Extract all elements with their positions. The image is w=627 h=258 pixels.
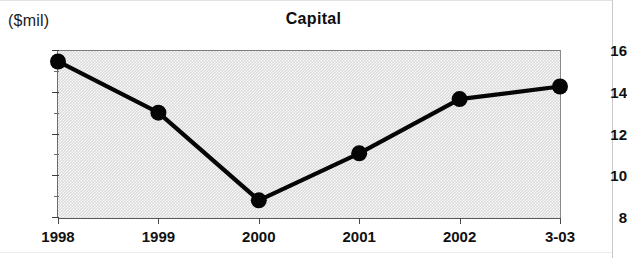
- plot-right-border: [560, 50, 561, 218]
- x-tick-label-2001: 2001: [343, 228, 376, 245]
- y-tick-label-12: 12: [581, 125, 627, 142]
- x-tick-2000: [259, 218, 260, 224]
- plot-area: [58, 50, 560, 219]
- y-minor-tick-11: [54, 154, 59, 155]
- x-tick-label-1998: 1998: [41, 228, 74, 245]
- x-tick-label-2002: 2002: [443, 228, 476, 245]
- y-tick-label-8: 8: [581, 209, 627, 226]
- y-minor-tick-15: [54, 71, 59, 72]
- x-tick-3-03: [560, 218, 561, 224]
- y-minor-tick-9: [54, 196, 59, 197]
- y-tick-12: [52, 134, 59, 135]
- x-tick-2002: [460, 218, 461, 224]
- x-tick-label-2000: 2000: [242, 228, 275, 245]
- chart-figure: ($mil) Capital 810121416 199819992000200…: [0, 0, 627, 258]
- y-tick-label-16: 16: [581, 42, 627, 59]
- y-tick-10: [52, 175, 59, 176]
- x-tick-1998: [58, 218, 59, 224]
- y-tick-label-14: 14: [581, 83, 627, 100]
- chart-title: Capital: [0, 10, 627, 28]
- y-tick-14: [52, 92, 59, 93]
- x-tick-2001: [359, 218, 360, 224]
- x-tick-1999: [158, 218, 159, 224]
- x-tick-label-1999: 1999: [142, 228, 175, 245]
- y-tick-label-10: 10: [581, 167, 627, 184]
- page-edge-top-divider: [0, 0, 612, 1]
- y-tick-16: [52, 50, 59, 51]
- x-tick-label-3-03: 3-03: [545, 228, 575, 245]
- page-edge-bottom-divider: [0, 252, 612, 253]
- y-minor-tick-13: [54, 113, 59, 114]
